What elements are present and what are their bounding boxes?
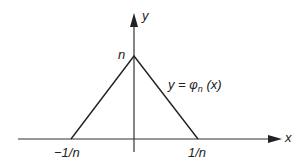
tick-label-left: −1/n [54, 145, 80, 160]
x-axis-label: x [285, 130, 292, 145]
y-axis-arrow-icon [130, 13, 138, 27]
curve-label-prefix: y = φ [168, 77, 198, 92]
x-axis-arrow-icon [268, 135, 282, 143]
tick-label-right: 1/n [188, 145, 206, 160]
triangle-function-diagram: y x n y = φn (x) −1/n 1/n [0, 0, 305, 165]
peak-label: n [118, 47, 125, 62]
curve-label-suffix: (x) [203, 77, 222, 92]
graph-svg [0, 0, 305, 165]
y-axis-label: y [142, 8, 149, 23]
curve-label: y = φn (x) [168, 77, 222, 94]
